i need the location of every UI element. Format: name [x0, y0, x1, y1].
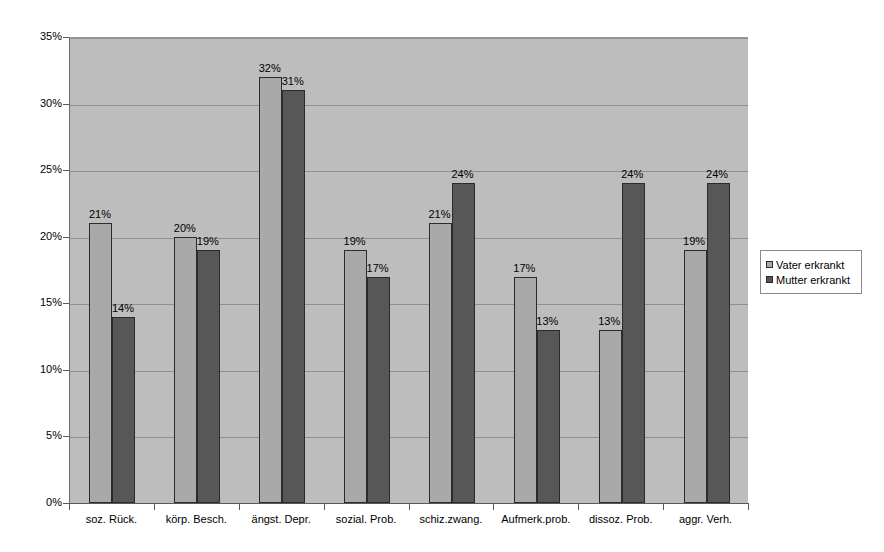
x-axis-category-label: dissoz. Prob.: [578, 513, 663, 525]
bar-mutter: [112, 317, 135, 503]
bar-vater: [89, 223, 112, 503]
y-axis-tick-label: 25%: [22, 164, 62, 175]
bar-value-label: 31%: [275, 76, 310, 87]
y-axis-tick-label: 20%: [22, 231, 62, 242]
gridline: [70, 238, 748, 239]
x-axis-category-label: körp. Besch.: [154, 513, 239, 525]
gridline: [70, 38, 748, 39]
bar-mutter: [537, 330, 560, 503]
legend: Vater erkrankt Mutter erkrankt: [760, 250, 862, 294]
x-axis-tick-mark: [324, 504, 325, 510]
x-axis-tick-mark: [69, 504, 70, 510]
x-axis-tick-mark: [663, 504, 664, 510]
x-axis-category-label: Aufmerk.prob.: [493, 513, 578, 525]
y-axis-tick-mark: [63, 436, 69, 437]
y-axis: 0%5%10%15%20%25%30%35%: [0, 0, 62, 552]
x-axis-tick-mark: [493, 504, 494, 510]
bar-vater: [514, 277, 537, 503]
bar-value-label: 13%: [592, 316, 627, 327]
y-axis-tick-mark: [63, 303, 69, 304]
y-axis-tick-label: 5%: [22, 430, 62, 441]
bar-mutter: [197, 250, 220, 503]
bar-value-label: 32%: [252, 63, 287, 74]
bar-value-label: 14%: [105, 303, 140, 314]
bar-mutter: [707, 183, 730, 503]
gridline: [70, 105, 748, 106]
legend-label-mutter: Mutter erkrankt: [776, 274, 850, 286]
y-axis-tick-label: 0%: [22, 497, 62, 508]
plot-area: [69, 37, 748, 503]
x-axis-tick-mark: [239, 504, 240, 510]
x-axis-category-label: aggr. Verh.: [663, 513, 748, 525]
y-axis-tick-label: 10%: [22, 364, 62, 375]
x-axis-tick-mark: [748, 504, 749, 510]
y-axis-tick-label: 30%: [22, 98, 62, 109]
y-axis-tick-mark: [63, 37, 69, 38]
bar-mutter: [452, 183, 475, 503]
bar-value-label: 24%: [445, 169, 480, 180]
y-axis-tick-mark: [63, 170, 69, 171]
bar-vater: [684, 250, 707, 503]
legend-swatch-icon-mutter: [766, 276, 773, 283]
y-axis-tick-label: 35%: [22, 31, 62, 42]
gridline: [70, 304, 748, 305]
legend-label-vater: Vater erkrankt: [776, 259, 844, 271]
bar-value-label: 21%: [82, 209, 117, 220]
bar-vater: [599, 330, 622, 503]
legend-swatch-icon-vater: [766, 261, 773, 268]
bar-value-label: 17%: [507, 263, 542, 274]
y-axis-tick-mark: [63, 104, 69, 105]
bar-mutter: [367, 277, 390, 503]
y-axis-tick-label: 15%: [22, 297, 62, 308]
bar-mutter: [282, 90, 305, 503]
x-axis-tick-mark: [578, 504, 579, 510]
bar-value-label: 13%: [530, 316, 565, 327]
bar-value-label: 24%: [615, 169, 650, 180]
bar-vater: [344, 250, 367, 503]
bar-mutter: [622, 183, 645, 503]
x-axis-tick-mark: [154, 504, 155, 510]
bar-value-label: 17%: [360, 263, 395, 274]
x-axis-category-label: soz. Rück.: [69, 513, 154, 525]
y-axis-tick-mark: [63, 370, 69, 371]
bar-value-label: 20%: [167, 223, 202, 234]
bar-vater: [174, 237, 197, 503]
gridline: [70, 437, 748, 438]
x-axis-category-label: ängst. Depr.: [239, 513, 324, 525]
bar-value-label: 19%: [190, 236, 225, 247]
legend-item-mutter: Mutter erkrankt: [766, 272, 855, 287]
y-axis-tick-mark: [63, 237, 69, 238]
x-axis-tick-mark: [409, 504, 410, 510]
bar-value-label: 19%: [337, 236, 372, 247]
x-axis-category-label: schiz.zwang.: [409, 513, 494, 525]
bar-value-label: 24%: [700, 169, 735, 180]
x-axis-category-label: sozial. Prob.: [324, 513, 409, 525]
bar-chart: 0%5%10%15%20%25%30%35% 21%14%20%19%32%31…: [0, 0, 884, 552]
bar-value-label: 21%: [422, 209, 457, 220]
legend-item-vater: Vater erkrankt: [766, 257, 855, 272]
bar-vater: [259, 77, 282, 503]
gridline: [70, 371, 748, 372]
bar-value-label: 19%: [677, 236, 712, 247]
bar-vater: [429, 223, 452, 503]
